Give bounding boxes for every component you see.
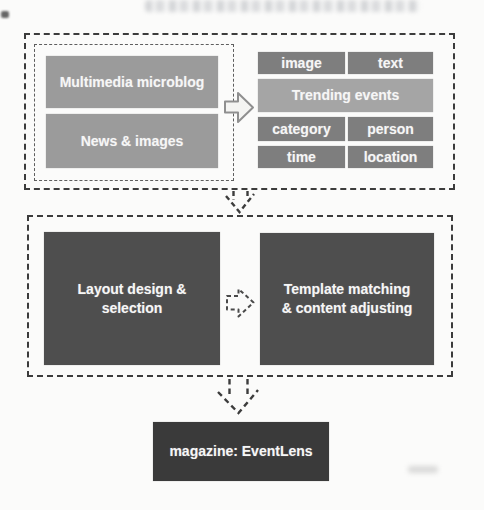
box-news-images-label: News & images <box>81 132 184 151</box>
box-attribute-location-label: location <box>364 148 418 167</box>
scan-ink-dot-artifact <box>1 11 9 18</box>
box-template-matching-adjusting: Template matching & content adjusting <box>260 233 434 365</box>
box-modality-text-label: text <box>378 54 403 73</box>
data-sources-group: Multimedia microblog News & images <box>34 44 234 181</box>
box-attribute-time: time <box>258 146 345 168</box>
box-layout-line1: Layout design & <box>78 280 187 299</box>
box-magazine-eventlens-label: magazine: EventLens <box>169 442 312 461</box>
box-attribute-person: person <box>348 117 433 141</box>
scan-bleed-artifact <box>145 0 420 12</box>
box-attribute-category-label: category <box>272 120 330 139</box>
box-news-images: News & images <box>46 114 218 168</box>
box-modality-image-label: image <box>281 54 321 73</box>
box-multimedia-microblog-label: Multimedia microblog <box>60 73 205 92</box>
box-trending-events: Trending events <box>258 79 433 112</box>
box-multimedia-microblog: Multimedia microblog <box>46 56 218 108</box>
box-layout-design-selection: Layout design & selection <box>44 232 220 365</box>
box-attribute-time-label: time <box>287 148 316 167</box>
box-trending-events-label: Trending events <box>292 86 399 105</box>
output-arrow-down-icon <box>218 379 258 413</box>
box-template-line1: Template matching <box>284 280 411 299</box>
box-magazine-eventlens: magazine: EventLens <box>153 422 329 481</box>
scan-smudge-artifact <box>408 466 438 473</box>
box-modality-text: text <box>348 52 433 74</box>
box-attribute-location: location <box>348 146 433 168</box>
stage2-composition-group: Layout design & selection Template match… <box>27 215 453 377</box>
box-attribute-person-label: person <box>367 120 414 139</box>
box-template-line2: & content adjusting <box>282 299 413 318</box>
diagram-canvas: Multimedia microblog News & images image… <box>0 0 484 510</box>
stage1-extraction-group: Multimedia microblog News & images image… <box>24 33 455 190</box>
box-attribute-category: category <box>258 117 345 141</box>
box-modality-image: image <box>258 52 345 74</box>
stage-flow-arrow-down-icon <box>226 191 254 212</box>
box-layout-line2: selection <box>102 299 163 318</box>
